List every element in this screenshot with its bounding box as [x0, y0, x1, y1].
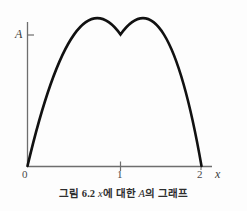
caption-middle-text: 에 대한 [103, 188, 136, 199]
caption-figure-number: 그림 6.2 [59, 188, 95, 199]
figure-caption: 그림 6.2 x에 대한 A의 그래프 [0, 188, 247, 201]
parabola-plot [0, 0, 247, 211]
x-axis-label: x [215, 168, 220, 180]
figure-container: A 0 1 2 x 그림 6.2 x에 대한 A의 그래프 [0, 0, 247, 211]
origin-tick-label: 0 [22, 169, 28, 180]
x-tick-label-2: 2 [197, 169, 203, 180]
caption-tail-text: 의 그래프 [145, 188, 188, 199]
y-axis-label: A [15, 28, 22, 40]
parabola-curve [28, 18, 202, 166]
x-tick-label-1: 1 [117, 169, 123, 180]
